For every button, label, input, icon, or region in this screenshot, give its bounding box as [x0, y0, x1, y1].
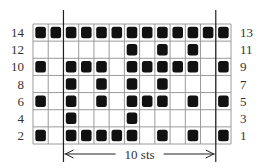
row-label-left: 10 [11, 59, 24, 74]
filled-stitch [66, 27, 77, 39]
filled-stitch [188, 27, 199, 39]
filled-stitch [127, 44, 138, 56]
filled-stitch [157, 44, 168, 56]
filled-stitch [157, 27, 168, 39]
filled-stitch [35, 27, 46, 39]
filled-stitch [66, 130, 77, 142]
filled-stitch [218, 61, 229, 73]
filled-stitch [127, 95, 138, 107]
filled-stitch [188, 61, 199, 73]
filled-stitch [172, 27, 183, 39]
row-label-left: 6 [18, 94, 25, 109]
filled-stitch [218, 95, 229, 107]
filled-stitch [112, 130, 123, 142]
filled-stitch [35, 95, 46, 107]
filled-stitch [142, 27, 153, 39]
repeat-label: 10 sts [125, 147, 155, 162]
row-label-left: 2 [18, 128, 25, 143]
filled-stitch [127, 61, 138, 73]
filled-stitch [112, 27, 123, 39]
filled-stitch [66, 95, 77, 107]
filled-stitch [51, 27, 62, 39]
filled-stitch [127, 130, 138, 142]
filled-stitch [66, 113, 77, 125]
filled-stitch [35, 130, 46, 142]
filled-stitch [66, 78, 77, 90]
filled-stitch [142, 61, 153, 73]
row-label-right: 11 [240, 42, 253, 57]
row-label-left: 4 [18, 111, 25, 126]
filled-stitch [96, 78, 107, 90]
filled-stitch [81, 27, 92, 39]
row-label-left: 14 [11, 25, 25, 40]
filled-stitch [172, 61, 183, 73]
filled-stitch [218, 27, 229, 39]
row-label-right: 1 [240, 128, 247, 143]
filled-stitch [188, 95, 199, 107]
filled-stitch [188, 44, 199, 56]
row-label-right: 7 [240, 77, 247, 92]
filled-stitch [66, 61, 77, 73]
filled-stitch [157, 130, 168, 142]
chart-cells [33, 24, 231, 144]
filled-stitch [127, 27, 138, 39]
row-label-left: 12 [11, 42, 24, 57]
filled-stitch [96, 27, 107, 39]
filled-stitch [81, 61, 92, 73]
filled-stitch [218, 130, 229, 142]
row-label-right: 3 [240, 111, 247, 126]
filled-stitch [96, 95, 107, 107]
knitting-chart: 1413121110987654321 10 sts [0, 0, 266, 168]
filled-stitch [96, 61, 107, 73]
filled-stitch [203, 27, 214, 39]
filled-stitch [81, 130, 92, 142]
filled-stitch [188, 130, 199, 142]
row-label-left: 8 [18, 77, 25, 92]
filled-stitch [157, 61, 168, 73]
filled-stitch [157, 78, 168, 90]
filled-stitch [127, 113, 138, 125]
filled-stitch [127, 78, 138, 90]
row-label-right: 13 [240, 25, 253, 40]
filled-stitch [96, 130, 107, 142]
filled-stitch [35, 61, 46, 73]
filled-stitch [142, 95, 153, 107]
row-label-right: 5 [240, 94, 247, 109]
filled-stitch [157, 95, 168, 107]
row-label-right: 9 [240, 59, 247, 74]
